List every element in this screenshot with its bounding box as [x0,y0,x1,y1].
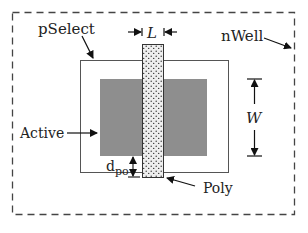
width-label: W [246,109,263,127]
pselect-label: pSelect [38,20,95,38]
poly-gate [143,45,164,178]
layout-diagram: pSelect nWell Active Poly L W dpo [0,0,308,233]
active-label: Active [19,125,64,141]
nwell-arrow [264,38,291,48]
poly-arrow [167,178,195,186]
nwell-label: nWell [221,27,264,45]
poly-label: Poly [203,180,233,196]
length-label: L [146,24,157,42]
pselect-arrow [82,36,93,58]
